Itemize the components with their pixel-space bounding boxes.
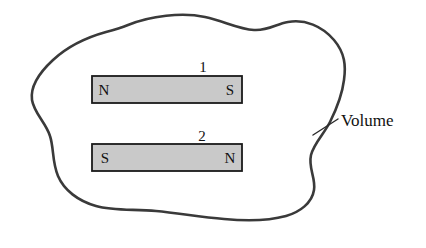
- magnet-1-index-label: 1: [199, 59, 207, 75]
- magnet-2-left-pole-label: S: [101, 150, 109, 166]
- magnet-volume-figure: 1 N S 2 S N Volume: [0, 0, 426, 248]
- magnet-2-right-pole-label: N: [225, 150, 236, 166]
- volume-boundary-path: [32, 15, 345, 220]
- magnet-1-body: [92, 76, 242, 103]
- magnet-1-right-pole-label: S: [226, 82, 234, 98]
- magnet-1-left-pole-label: N: [99, 82, 110, 98]
- volume-label: Volume: [341, 111, 394, 130]
- magnet-2-body: [92, 144, 242, 171]
- diagram-canvas: 1 N S 2 S N Volume: [0, 0, 426, 248]
- magnet-2-index-label: 2: [198, 128, 206, 144]
